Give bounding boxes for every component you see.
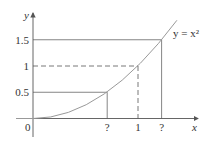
y-tick-1: 1 (24, 60, 30, 72)
chart: y x 0 0.5 1 1.5 ? 1 ? y = x² (0, 0, 218, 151)
y-tick-0-5: 0.5 (15, 86, 29, 98)
y-axis-label: y (23, 9, 29, 21)
guide-lines (33, 40, 162, 119)
x-tick-1: 1 (135, 121, 141, 133)
x-axis-label: x (191, 121, 197, 133)
curve-y-equals-x-squared (16, 20, 177, 118)
origin-label: 0 (25, 121, 31, 133)
x-tick-unknown-2: ? (159, 121, 164, 133)
curve-label: y = x² (173, 27, 200, 39)
x-tick-unknown-1: ? (105, 121, 110, 133)
y-tick-1-5: 1.5 (15, 34, 29, 46)
